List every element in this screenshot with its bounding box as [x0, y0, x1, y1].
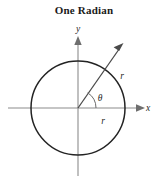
theta-label: θ [98, 93, 103, 103]
radius-ray-label: r [120, 71, 124, 81]
radius-horizontal-label: r [101, 116, 105, 126]
y-axis-arrowhead-icon [74, 36, 81, 45]
radian-figure: One Radian x y θ r r [0, 0, 168, 182]
terminal-ray-arrowhead-icon [114, 43, 124, 51]
diagram-canvas: x y θ r r [0, 0, 168, 182]
x-axis-label: x [145, 103, 151, 113]
x-axis-arrowhead-icon [136, 104, 145, 111]
angle-arc [88, 93, 96, 108]
y-axis-label: y [75, 24, 81, 34]
